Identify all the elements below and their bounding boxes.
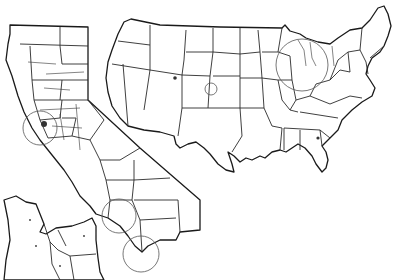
los-angeles-circle — [102, 199, 136, 233]
map-canvas — [0, 0, 397, 280]
colorado-circle — [205, 83, 217, 95]
usa-states — [106, 6, 391, 172]
california-counties — [6, 25, 200, 252]
bay-area-inset — [4, 196, 104, 280]
